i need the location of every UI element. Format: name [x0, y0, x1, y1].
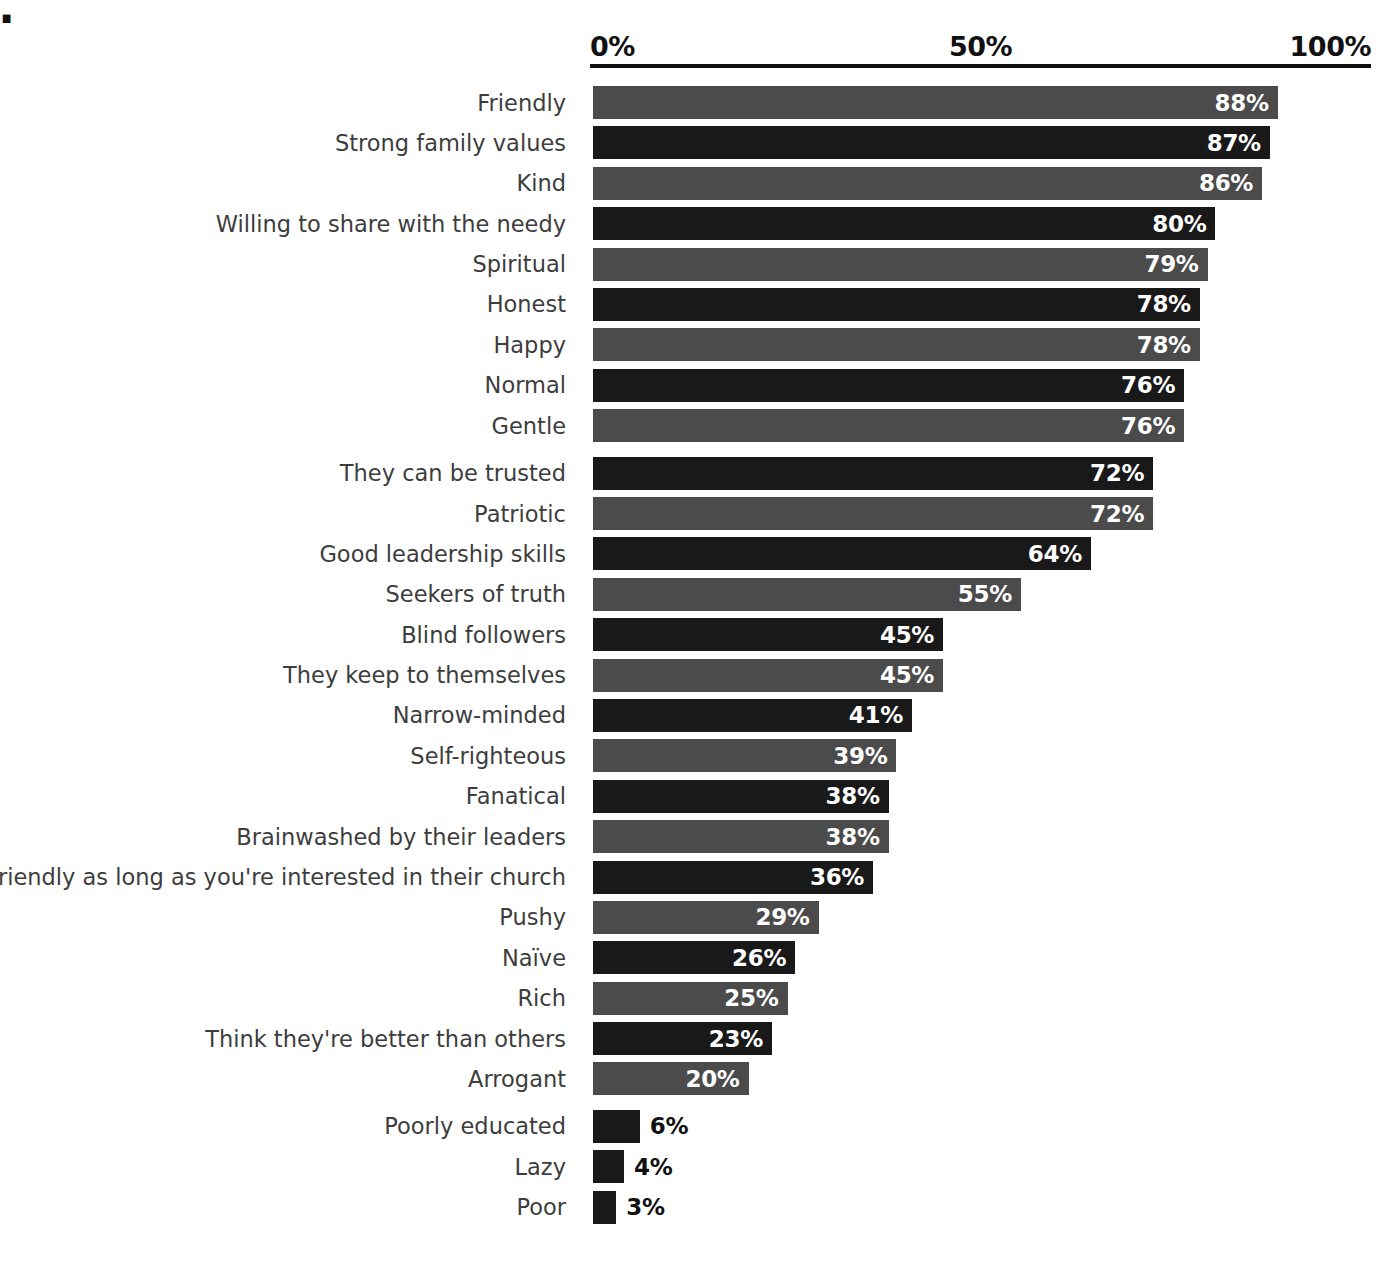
bar-value-label: 72%	[1090, 501, 1153, 527]
bar[interactable]: 76%	[593, 369, 1184, 402]
bar-track: 87%	[593, 126, 1371, 159]
bar[interactable]: 38%	[593, 780, 889, 813]
chart-row: Strong family values87%	[0, 126, 1389, 159]
bar-track: 41%	[593, 699, 1371, 732]
bar-track: 78%	[593, 328, 1371, 361]
bar-value-label: 72%	[1090, 460, 1153, 486]
category-label: Fanatical	[466, 783, 566, 809]
chart-row: Lazy4%	[0, 1150, 1389, 1183]
bar-track: 23%	[593, 1022, 1371, 1055]
bar-value-label: 36%	[810, 864, 873, 890]
bar-track: 64%	[593, 537, 1371, 570]
bar-value-label: 26%	[732, 945, 795, 971]
category-label: Lazy	[515, 1154, 566, 1180]
bar[interactable]: 36%	[593, 861, 873, 894]
bar[interactable]: 26%	[593, 941, 795, 974]
bar[interactable]: 23%	[593, 1022, 772, 1055]
bar-value-label: 76%	[1121, 372, 1184, 398]
bar-value-label: 64%	[1028, 541, 1091, 567]
chart-row: Poor3%	[0, 1191, 1389, 1224]
bar-track: 38%	[593, 780, 1371, 813]
bar-track: 55%	[593, 578, 1371, 611]
x-axis-rule	[590, 64, 1371, 68]
bar[interactable]: 79%	[593, 248, 1208, 281]
bar[interactable]: 88%	[593, 86, 1278, 119]
chart-row: Poorly educated6%	[0, 1110, 1389, 1143]
bar-value-label: 88%	[1214, 90, 1277, 116]
bar-track: 86%	[593, 167, 1371, 200]
chart-row: Good leadership skills64%	[0, 537, 1389, 570]
bar[interactable]: 4%	[593, 1150, 624, 1183]
bar[interactable]: 45%	[593, 659, 943, 692]
bar-value-label: 38%	[825, 783, 888, 809]
bar-track: 20%	[593, 1062, 1371, 1095]
bar[interactable]: 64%	[593, 537, 1091, 570]
bar-track: 88%	[593, 86, 1371, 119]
bar-track: 45%	[593, 618, 1371, 651]
bar[interactable]: 41%	[593, 699, 912, 732]
bar[interactable]: 80%	[593, 207, 1215, 240]
bar[interactable]: 55%	[593, 578, 1021, 611]
bar[interactable]: 78%	[593, 328, 1200, 361]
bar[interactable]: 78%	[593, 288, 1200, 321]
bar-track: 76%	[593, 369, 1371, 402]
bar-value-label: 87%	[1207, 130, 1270, 156]
bar-track: 26%	[593, 941, 1371, 974]
bar-track: 29%	[593, 901, 1371, 934]
category-label: Spiritual	[473, 251, 566, 277]
bar-value-label: 55%	[958, 581, 1021, 607]
bar[interactable]: 38%	[593, 820, 889, 853]
bar[interactable]: 72%	[593, 457, 1153, 490]
bar-value-label: 3%	[616, 1194, 664, 1220]
bar-value-label: 78%	[1137, 291, 1200, 317]
category-label: Gentle	[492, 413, 566, 439]
category-label: Patriotic	[474, 501, 566, 527]
chart-row: Think they're better than others23%	[0, 1022, 1389, 1055]
bar-track: 38%	[593, 820, 1371, 853]
bar[interactable]: 86%	[593, 167, 1262, 200]
category-label: They keep to themselves	[283, 662, 566, 688]
bar[interactable]: 76%	[593, 409, 1184, 442]
bar-value-label: 4%	[624, 1154, 672, 1180]
bar-value-label: 20%	[685, 1066, 748, 1092]
bar-track: 36%	[593, 861, 1371, 894]
category-label: Blind followers	[401, 622, 566, 648]
chart-row: Fanatical38%	[0, 780, 1389, 813]
chart-row: Narrow-minded41%	[0, 699, 1389, 732]
bar[interactable]: 3%	[593, 1191, 616, 1224]
bar-value-label: 25%	[724, 985, 787, 1011]
bar-track: 76%	[593, 409, 1371, 442]
bar[interactable]: 25%	[593, 982, 788, 1015]
bar-track: 72%	[593, 457, 1371, 490]
chart-row: Willing to share with the needy80%	[0, 207, 1389, 240]
chart-row: Brainwashed by their leaders38%	[0, 820, 1389, 853]
bar-value-label: 41%	[849, 702, 912, 728]
bar-value-label: 80%	[1152, 211, 1215, 237]
bar[interactable]: 6%	[593, 1110, 640, 1143]
category-label: Seekers of truth	[386, 581, 566, 607]
bar[interactable]: 29%	[593, 901, 819, 934]
chart-row: Happy78%	[0, 328, 1389, 361]
chart-row: Normal76%	[0, 369, 1389, 402]
chart-row: Spiritual79%	[0, 248, 1389, 281]
x-axis-tick-labels: 0% 50% 100%	[590, 20, 1371, 62]
category-label: They can be trusted	[340, 460, 566, 486]
category-label: Think they're better than others	[205, 1026, 566, 1052]
bar-track: 72%	[593, 497, 1371, 530]
bar[interactable]: 87%	[593, 126, 1270, 159]
x-axis-tick-0: 0%	[590, 31, 635, 62]
bar-track: 4%	[593, 1150, 1371, 1183]
bar-value-label: 6%	[640, 1113, 688, 1139]
bar[interactable]: 39%	[593, 739, 896, 772]
category-label: Honest	[487, 291, 566, 317]
bar[interactable]: 45%	[593, 618, 943, 651]
bar-track: 79%	[593, 248, 1371, 281]
category-label: Good leadership skills	[319, 541, 566, 567]
bar[interactable]: 72%	[593, 497, 1153, 530]
bar-track: 6%	[593, 1110, 1371, 1143]
bar[interactable]: 20%	[593, 1062, 749, 1095]
bar-value-label: 76%	[1121, 413, 1184, 439]
bar-value-label: 86%	[1199, 170, 1262, 196]
category-label: Normal	[485, 372, 566, 398]
bar-value-label: 23%	[709, 1026, 772, 1052]
